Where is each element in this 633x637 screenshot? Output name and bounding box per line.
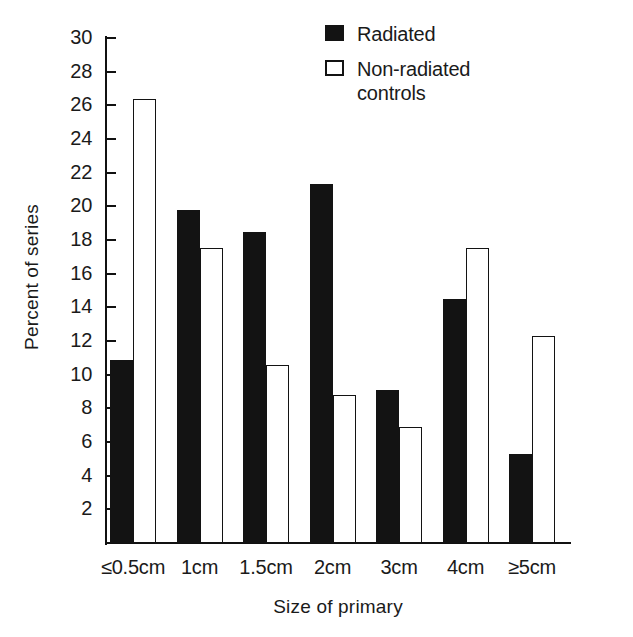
x-axis-tick-label: 1cm [165, 556, 235, 578]
x-axis-tick-label: 4cm [431, 556, 501, 578]
y-axis-tick-label: 24 [58, 128, 92, 148]
y-axis-title: Percent of series [21, 167, 43, 387]
hollow-square-swatch-icon [325, 60, 344, 76]
bar-non-radiated [333, 395, 356, 543]
y-axis-tick-label: 18 [58, 229, 92, 249]
filled-square-swatch-icon [325, 25, 344, 41]
bar-non-radiated [266, 365, 289, 543]
y-axis-tick-label: 2 [58, 498, 92, 518]
chart-figure: 30282624222018161412108642 Percent of se… [0, 0, 633, 637]
y-axis-tick-label: 20 [58, 195, 92, 215]
x-axis-tick-label: 1.5cm [231, 556, 301, 578]
y-axis-tick-label: 4 [58, 465, 92, 485]
bar-group [243, 36, 289, 543]
chart-legend: Radiated Non-radiated controls [325, 22, 470, 114]
bar-group [110, 36, 156, 543]
bar-radiated [443, 299, 466, 543]
legend-label: Non-radiated controls [357, 57, 470, 105]
x-axis-tick-label: ≤0.5cm [98, 556, 168, 578]
bar-non-radiated [532, 336, 555, 543]
bar-radiated [376, 390, 399, 543]
bar-radiated [110, 360, 133, 543]
y-axis-tick-label: 6 [58, 431, 92, 451]
x-axis-tick-label: 3cm [364, 556, 434, 578]
legend-label: Radiated [357, 22, 470, 46]
legend-item-non-radiated-controls: Non-radiated controls [325, 57, 470, 105]
bar-radiated [310, 184, 333, 543]
x-axis-title: Size of primary [105, 596, 571, 618]
bar-non-radiated [133, 99, 156, 543]
y-axis-tick-label: 22 [58, 162, 92, 182]
y-axis-tick-label: 16 [58, 263, 92, 283]
bar-radiated [177, 210, 200, 543]
bar-radiated [243, 232, 266, 543]
y-axis-tick-label: 26 [58, 94, 92, 114]
bar-group [509, 36, 555, 543]
y-axis-tick-label: 30 [58, 27, 92, 47]
y-axis-tick-label: 14 [58, 296, 92, 316]
y-axis-tick-label: 28 [58, 61, 92, 81]
y-axis-tick-label: 10 [58, 364, 92, 384]
bar-radiated [509, 454, 532, 543]
bar-non-radiated [200, 248, 223, 543]
x-axis-tick-label: 2cm [298, 556, 368, 578]
plot-area: 30282624222018161412108642 Percent of se… [0, 0, 633, 637]
legend-item-radiated: Radiated [325, 22, 470, 48]
y-axis-tick-label: 12 [58, 330, 92, 350]
x-axis-tick-label: ≥5cm [497, 556, 567, 578]
y-axis-tick-label: 8 [58, 397, 92, 417]
bar-group [177, 36, 223, 543]
bar-non-radiated [466, 248, 489, 543]
bar-non-radiated [399, 427, 422, 543]
